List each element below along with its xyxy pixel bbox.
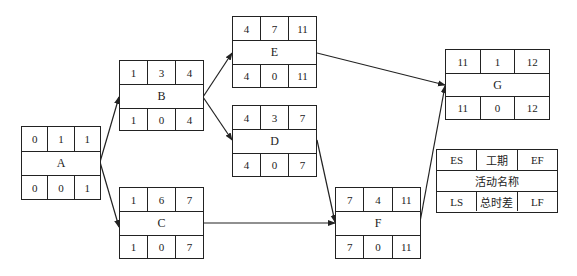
es-value: 4 (233, 106, 260, 129)
arrow-b-to-d (203, 97, 232, 140)
duration-value: 3 (260, 106, 288, 129)
activity-node-a: 0 1 1 A 0 0 1 (21, 126, 101, 200)
ls-value: 1 (120, 236, 147, 258)
total-float-value: 0 (47, 176, 73, 199)
duration-value: 6 (147, 188, 175, 211)
activity-node-c: 1 6 7 C 1 0 7 (119, 187, 204, 259)
arrow-d-to-f (317, 140, 335, 222)
ls-value: 7 (336, 236, 363, 258)
lf-value: 11 (288, 65, 316, 87)
duration-value: 3 (147, 61, 175, 84)
legend-es: ES (437, 150, 476, 170)
total-float-value: 0 (147, 236, 175, 258)
ef-value: 7 (175, 188, 203, 211)
lf-value: 1 (74, 176, 100, 199)
ls-value: 11 (446, 97, 480, 119)
lf-value: 12 (514, 97, 549, 119)
es-value: 11 (446, 50, 480, 73)
ef-value: 11 (392, 188, 420, 211)
activity-name: E (271, 45, 278, 60)
total-float-value: 0 (480, 97, 515, 119)
duration-value: 4 (363, 188, 391, 211)
legend-ef: EF (517, 150, 557, 170)
es-value: 0 (22, 127, 47, 151)
total-float-value: 0 (363, 236, 391, 258)
duration-value: 7 (260, 17, 288, 40)
legend-total-float: 总时差 (476, 192, 516, 211)
es-value: 4 (233, 17, 260, 40)
activity-name: D (270, 134, 279, 149)
activity-node-e: 4 7 11 E 4 0 11 (232, 16, 317, 88)
activity-name: C (157, 216, 165, 231)
es-value: 1 (120, 188, 147, 211)
activity-name: A (57, 156, 66, 171)
legend-duration: 工期 (476, 150, 516, 170)
lf-value: 7 (288, 154, 316, 176)
activity-node-b: 1 3 4 B 1 0 4 (119, 60, 204, 131)
legend-ls: LS (437, 192, 476, 211)
es-value: 1 (120, 61, 147, 84)
lf-value: 4 (175, 109, 203, 130)
ef-value: 7 (288, 106, 316, 129)
activity-name: G (493, 78, 502, 93)
activity-node-f: 7 4 11 F 7 0 11 (335, 187, 421, 259)
ls-value: 0 (22, 176, 47, 199)
ef-value: 4 (175, 61, 203, 84)
ef-value: 12 (514, 50, 549, 73)
total-float-value: 0 (147, 109, 175, 130)
activity-node-g: 11 1 12 G 11 0 12 (445, 49, 550, 120)
activity-node-d: 4 3 7 D 4 0 7 (232, 105, 317, 177)
lf-value: 7 (175, 236, 203, 258)
ef-value: 1 (74, 127, 100, 151)
ef-value: 11 (288, 17, 316, 40)
legend-key: ES 工期 EF 活动名称 LS 总时差 LF (436, 149, 558, 213)
arrow-a-to-c (100, 162, 119, 227)
es-value: 7 (336, 188, 363, 211)
ls-value: 4 (233, 154, 260, 176)
lf-value: 11 (392, 236, 420, 258)
arrow-b-to-e (203, 53, 232, 97)
activity-name: B (157, 89, 165, 104)
ls-value: 1 (120, 109, 147, 130)
duration-value: 1 (47, 127, 73, 151)
arrow-a-to-b (100, 97, 119, 162)
legend-lf: LF (517, 192, 557, 211)
total-float-value: 0 (260, 154, 288, 176)
duration-value: 1 (480, 50, 515, 73)
ls-value: 4 (233, 65, 260, 87)
activity-name: F (375, 216, 382, 231)
total-float-value: 0 (260, 65, 288, 87)
arrow-e-to-g (317, 53, 445, 85)
legend-activity-name: 活动名称 (475, 173, 519, 189)
